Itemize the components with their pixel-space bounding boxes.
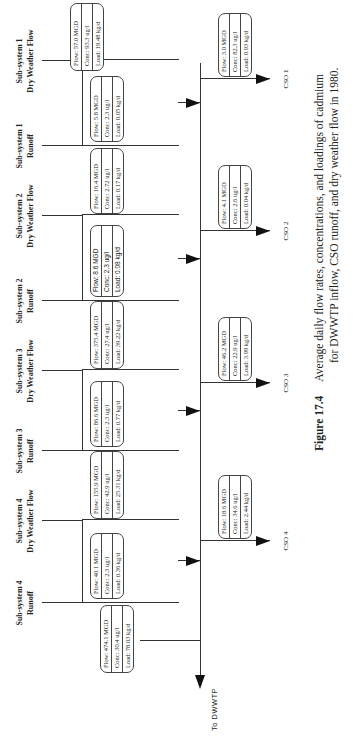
inflow-arrow-icon	[186, 556, 200, 566]
label-ss3-dwf: Sub-system 3 Dry Weather Flow	[14, 331, 36, 411]
label-line: Dry Weather Flow	[25, 21, 36, 101]
figure-caption: Figure 17.4Average daily flow rates, con…	[312, 11, 342, 451]
load-value: Load: 0.08 kg/d	[113, 226, 123, 296]
flow-value: Flow: 8.6 MGD	[91, 226, 102, 296]
dwwtp-link-line	[140, 640, 200, 641]
conc-value: Conc: 34.6 ug/l	[230, 476, 241, 538]
conc-value: Conc: 2.3 ug/l	[102, 77, 113, 141]
box-ss2-runoff: Flow: 8.6 MGD Conc: 2.3 ug/l Load: 0.08 …	[90, 225, 124, 297]
label-line: Sub-system 3	[14, 331, 25, 411]
label-line: Dry Weather Flow	[25, 176, 36, 256]
cso-arrow-icon	[256, 378, 270, 388]
load-value: Load: 2.44 kg/d	[241, 476, 251, 538]
cso-label: CSO 1	[282, 59, 290, 99]
flow-value: Flow: 4.1 MGD	[219, 166, 230, 228]
load-value: Load: 19.48 kg/d	[93, 4, 103, 70]
label-line: Runoff	[25, 271, 36, 331]
dwwtp-arrow-icon	[195, 675, 205, 689]
cso-label: CSO 3	[282, 363, 290, 403]
box-cso2: Flow: 4.1 MGD Conc: 2.6 ug/l Load: 0.04 …	[218, 165, 252, 229]
flow-value: Flow: 5.8 MGD	[91, 77, 102, 141]
label-ss2-dwf: Sub-system 2 Dry Weather Flow	[14, 176, 36, 256]
conc-value: Conc: 2.3 ug/l	[102, 382, 113, 446]
box-ss3-dwf: Flow: 375.4 MGD Conc: 27.4 ug/l Load: 39…	[90, 301, 124, 369]
feeder-line	[42, 300, 82, 301]
inflow-arrow-icon	[186, 406, 200, 416]
box-cso4: Flow: 18.6 MGD Conc: 34.6 ug/l Load: 2.4…	[218, 475, 252, 539]
box-cso1: Flow: 3.0 MGD Conc: 82.3 ug/l Load: 0.93…	[218, 13, 252, 77]
flow-value: Flow: 474.1 MGD	[101, 606, 112, 672]
box-cso3: Flow: 46.2 MGD Conc: 22.9 ug/l Load: 3.9…	[218, 317, 252, 381]
figure-number: Figure 17.4	[313, 396, 325, 451]
label-line: Dry Weather Flow	[25, 481, 36, 561]
flow-value: Flow: 46.2 MGD	[219, 318, 230, 380]
feeder-line	[42, 602, 82, 603]
load-value: Load: 0.77 kg/d	[113, 382, 123, 446]
label-ss1-runoff: Sub-system 1 Runoff	[14, 116, 36, 176]
label-line: Sub-system 4	[14, 573, 25, 633]
conc-value: Conc: 2.72 ug/l	[102, 149, 113, 213]
label-ss4-dwf: Sub-system 4 Dry Weather Flow	[14, 481, 36, 561]
box-ss1-dwf: Flow: 57.0 MGD Conc: 93.3 ug/l Load: 19.…	[70, 3, 104, 71]
conc-value: Conc: 30.4 ug/l	[112, 606, 123, 672]
label-line: Sub-system 1	[14, 116, 25, 176]
dwwtp-label: To DWWTP	[210, 688, 219, 731]
cso-arrow-icon	[256, 536, 270, 546]
flow-value: Flow: 86.6 MGD	[91, 382, 102, 446]
load-value: Load: 3.99 kg/d	[241, 318, 251, 380]
load-value: Load: 0.05 kg/d	[113, 77, 123, 141]
flow-value: Flow: 16.4 MGD	[91, 149, 102, 213]
conc-value: Conc: 42.9 ug/l	[102, 452, 113, 518]
cso-arrow-icon	[256, 226, 270, 236]
box-ss4-runoff: Flow: 40.1 MGD Conc: 2.3 ug/l Load: 0.36…	[90, 533, 124, 599]
conc-value: Conc: 2.3 ug/l	[102, 226, 113, 296]
caption-line1: Average daily flow rates, concentrations…	[313, 74, 325, 382]
caption-line2: for DWWTP inflow, CSO runoff, and dry we…	[327, 11, 342, 451]
label-line: Runoff	[25, 573, 36, 633]
flow-value: Flow: 3.0 MGD	[219, 14, 230, 76]
cso-label: CSO 4	[282, 521, 290, 561]
load-value: Load: 0.36 kg/d	[113, 534, 123, 598]
box-ss4-dwf: Flow: 155.9 MGD Conc: 42.9 ug/l Load: 25…	[90, 451, 124, 519]
label-line: Sub-system 2	[14, 176, 25, 256]
label-line: Sub-system 4	[14, 481, 25, 561]
inflow-arrow-icon	[186, 98, 200, 108]
label-line: Dry Weather Flow	[25, 331, 36, 411]
flow-value: Flow: 155.9 MGD	[91, 452, 102, 518]
flow-value: Flow: 57.0 MGD	[71, 4, 82, 70]
feeder-line	[42, 370, 82, 371]
box-ss2-dwf: Flow: 16.4 MGD Conc: 2.72 ug/l Load: 0.1…	[90, 148, 124, 214]
label-ss2-runoff: Sub-system 2 Runoff	[14, 271, 36, 331]
conc-value: Conc: 22.9 ug/l	[230, 318, 241, 380]
flow-value: Flow: 40.1 MGD	[91, 534, 102, 598]
cso-arrow-icon	[256, 74, 270, 84]
cadmium-flow-diagram: Sub-system 4 Runoff Sub-system 4 Dry Wea…	[0, 0, 363, 751]
conc-value: Conc: 2.6 ug/l	[230, 166, 241, 228]
box-ss1-runoff: Flow: 5.8 MGD Conc: 2.3 ug/l Load: 0.05 …	[90, 76, 124, 142]
feeder-line	[42, 215, 82, 216]
inflow-arrow-icon	[186, 254, 200, 264]
conc-value: Conc: 93.3 ug/l	[82, 4, 93, 70]
load-value: Load: 39.22 kg/d	[113, 302, 123, 368]
load-value: Load: 0.93 kg/d	[241, 14, 251, 76]
label-line: Runoff	[25, 116, 36, 176]
load-value: Load: 0.17 kg/d	[113, 149, 123, 213]
main-trunk-line	[200, 63, 201, 675]
label-line: Sub-system 3	[14, 421, 25, 481]
label-line: Sub-system 2	[14, 271, 25, 331]
label-ss4-runoff: Sub-system 4 Runoff	[14, 573, 36, 633]
label-line: Sub-system 1	[14, 21, 25, 101]
flow-value: Flow: 375.4 MGD	[91, 302, 102, 368]
label-ss3-runoff: Sub-system 3 Runoff	[14, 421, 36, 481]
conc-value: Conc: 27.4 ug/l	[102, 302, 113, 368]
label-ss1-dwf: Sub-system 1 Dry Weather Flow	[14, 21, 36, 101]
load-value: Load: 0.04 kg/d	[241, 166, 251, 228]
feeder-line	[42, 520, 82, 521]
flow-value: Flow: 18.6 MGD	[219, 476, 230, 538]
conc-value: Conc: 2.3 ug/l	[102, 534, 113, 598]
load-value: Load: 25.31 kg/d	[113, 452, 123, 518]
conc-value: Conc: 82.3 ug/l	[230, 14, 241, 76]
feeder-line	[42, 145, 82, 146]
label-line: Runoff	[25, 421, 36, 481]
box-ss3-runoff: Flow: 86.6 MGD Conc: 2.3 ug/l Load: 0.77…	[90, 381, 124, 447]
